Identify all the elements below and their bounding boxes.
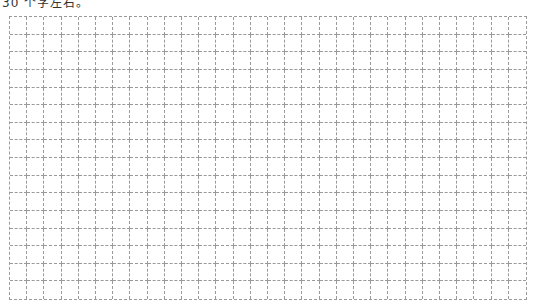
grid-cell[interactable]	[199, 176, 216, 194]
grid-cell[interactable]	[96, 52, 113, 70]
grid-cell[interactable]	[96, 176, 113, 194]
grid-cell[interactable]	[423, 281, 440, 299]
grid-cell[interactable]	[388, 246, 405, 264]
grid-cell[interactable]	[440, 140, 457, 158]
grid-cell[interactable]	[113, 264, 130, 282]
grid-cell[interactable]	[62, 52, 79, 70]
grid-cell[interactable]	[44, 35, 61, 53]
grid-cell[interactable]	[354, 246, 371, 264]
grid-cell[interactable]	[199, 158, 216, 176]
grid-cell[interactable]	[165, 229, 182, 247]
grid-cell[interactable]	[474, 193, 491, 211]
grid-cell[interactable]	[492, 105, 509, 123]
grid-cell[interactable]	[27, 211, 44, 229]
grid-cell[interactable]	[27, 246, 44, 264]
grid-cell[interactable]	[10, 211, 27, 229]
grid-cell[interactable]	[130, 35, 147, 53]
grid-cell[interactable]	[216, 211, 233, 229]
grid-cell[interactable]	[302, 17, 319, 35]
grid-cell[interactable]	[474, 246, 491, 264]
grid-cell[interactable]	[337, 123, 354, 141]
grid-cell[interactable]	[457, 35, 474, 53]
grid-cell[interactable]	[354, 35, 371, 53]
grid-cell[interactable]	[423, 88, 440, 106]
grid-cell[interactable]	[440, 123, 457, 141]
grid-cell[interactable]	[27, 281, 44, 299]
grid-cell[interactable]	[199, 211, 216, 229]
grid-cell[interactable]	[457, 281, 474, 299]
grid-cell[interactable]	[182, 158, 199, 176]
grid-cell[interactable]	[337, 17, 354, 35]
grid-cell[interactable]	[79, 193, 96, 211]
grid-cell[interactable]	[302, 211, 319, 229]
grid-cell[interactable]	[165, 281, 182, 299]
grid-cell[interactable]	[216, 88, 233, 106]
grid-cell[interactable]	[27, 52, 44, 70]
grid-cell[interactable]	[44, 193, 61, 211]
grid-cell[interactable]	[285, 35, 302, 53]
grid-cell[interactable]	[302, 88, 319, 106]
grid-cell[interactable]	[371, 281, 388, 299]
grid-cell[interactable]	[96, 281, 113, 299]
grid-cell[interactable]	[130, 246, 147, 264]
grid-cell[interactable]	[130, 88, 147, 106]
grid-cell[interactable]	[96, 88, 113, 106]
grid-cell[interactable]	[10, 105, 27, 123]
grid-cell[interactable]	[371, 35, 388, 53]
grid-cell[interactable]	[337, 158, 354, 176]
grid-cell[interactable]	[388, 35, 405, 53]
grid-cell[interactable]	[320, 229, 337, 247]
grid-cell[interactable]	[371, 246, 388, 264]
grid-cell[interactable]	[79, 229, 96, 247]
grid-cell[interactable]	[474, 264, 491, 282]
grid-cell[interactable]	[474, 35, 491, 53]
grid-cell[interactable]	[62, 281, 79, 299]
grid-cell[interactable]	[388, 264, 405, 282]
grid-cell[interactable]	[320, 281, 337, 299]
grid-cell[interactable]	[492, 246, 509, 264]
grid-cell[interactable]	[406, 229, 423, 247]
grid-cell[interactable]	[406, 211, 423, 229]
grid-cell[interactable]	[10, 229, 27, 247]
grid-cell[interactable]	[337, 105, 354, 123]
grid-cell[interactable]	[509, 246, 526, 264]
grid-cell[interactable]	[251, 193, 268, 211]
grid-cell[interactable]	[79, 88, 96, 106]
grid-cell[interactable]	[10, 70, 27, 88]
grid-cell[interactable]	[113, 105, 130, 123]
grid-cell[interactable]	[440, 193, 457, 211]
grid-cell[interactable]	[113, 229, 130, 247]
grid-cell[interactable]	[337, 246, 354, 264]
grid-cell[interactable]	[423, 123, 440, 141]
grid-cell[interactable]	[96, 193, 113, 211]
grid-cell[interactable]	[10, 281, 27, 299]
grid-cell[interactable]	[302, 246, 319, 264]
grid-cell[interactable]	[457, 52, 474, 70]
grid-cell[interactable]	[509, 140, 526, 158]
grid-cell[interactable]	[10, 158, 27, 176]
grid-cell[interactable]	[457, 264, 474, 282]
grid-cell[interactable]	[268, 52, 285, 70]
grid-cell[interactable]	[268, 70, 285, 88]
grid-cell[interactable]	[337, 70, 354, 88]
grid-cell[interactable]	[199, 123, 216, 141]
grid-cell[interactable]	[44, 229, 61, 247]
grid-cell[interactable]	[371, 264, 388, 282]
grid-cell[interactable]	[148, 176, 165, 194]
grid-cell[interactable]	[268, 158, 285, 176]
grid-cell[interactable]	[234, 70, 251, 88]
grid-cell[interactable]	[182, 246, 199, 264]
grid-cell[interactable]	[320, 211, 337, 229]
grid-cell[interactable]	[268, 281, 285, 299]
grid-cell[interactable]	[371, 123, 388, 141]
grid-cell[interactable]	[79, 211, 96, 229]
grid-cell[interactable]	[216, 193, 233, 211]
grid-cell[interactable]	[44, 264, 61, 282]
grid-cell[interactable]	[320, 70, 337, 88]
grid-cell[interactable]	[96, 229, 113, 247]
grid-cell[interactable]	[182, 211, 199, 229]
grid-cell[interactable]	[44, 246, 61, 264]
grid-cell[interactable]	[113, 193, 130, 211]
grid-cell[interactable]	[234, 176, 251, 194]
grid-cell[interactable]	[474, 211, 491, 229]
